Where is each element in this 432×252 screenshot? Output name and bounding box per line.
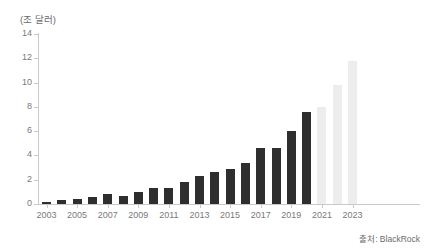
x-axis-tick-label: 2013 <box>189 210 209 220</box>
bar <box>333 85 342 204</box>
y-axis-tick-label: 2 <box>27 174 32 184</box>
x-axis-tick-mark <box>77 204 78 208</box>
y-axis-tick-label: 10 <box>22 77 32 87</box>
x-axis-tick-label: 2017 <box>251 210 271 220</box>
x-axis-tick-mark <box>169 204 170 208</box>
x-axis-tick-label: 2005 <box>67 210 87 220</box>
bar <box>317 107 326 204</box>
x-axis-tick-mark <box>108 204 109 208</box>
bar <box>149 188 158 204</box>
x-axis-tick-mark <box>138 204 139 208</box>
bar <box>241 163 250 204</box>
y-axis-tick-label: 14 <box>22 28 32 38</box>
x-axis-tick-mark <box>322 204 323 208</box>
x-axis-tick-mark <box>353 204 354 208</box>
x-axis-tick-mark <box>47 204 48 208</box>
x-axis-tick-mark <box>230 204 231 208</box>
y-axis-tick-label: 4 <box>27 149 32 159</box>
bar <box>302 112 311 204</box>
x-axis-tick-mark <box>261 204 262 208</box>
y-axis-unit-label: (조 달러) <box>20 12 56 26</box>
bar <box>119 196 128 205</box>
x-axis-tick-label: 2023 <box>342 210 362 220</box>
x-axis-tick-mark <box>291 204 292 208</box>
x-axis-tick-label: 2019 <box>281 210 301 220</box>
bar <box>226 169 235 204</box>
x-axis-ticks: 2003200520072009201120132015201720192021… <box>38 204 420 222</box>
bar <box>210 172 219 204</box>
bar <box>103 194 112 204</box>
x-axis-tick-label: 2015 <box>220 210 240 220</box>
y-axis-tick-label: 8 <box>27 101 32 111</box>
x-axis-tick-label: 2021 <box>312 210 332 220</box>
bar <box>180 182 189 204</box>
bar <box>348 61 357 204</box>
bar <box>195 176 204 204</box>
y-axis-tick-label: 6 <box>27 125 32 135</box>
x-axis-tick-label: 2003 <box>36 210 56 220</box>
bar <box>272 148 281 204</box>
bar <box>134 192 143 204</box>
bar-chart: (조 달러) 02468101214 200320052007200920112… <box>0 0 432 252</box>
bar <box>287 131 296 204</box>
y-axis-tick-label: 0 <box>27 198 32 208</box>
x-axis-tick-mark <box>200 204 201 208</box>
bar <box>256 148 265 204</box>
source-attribution: 출처: BlackRock <box>359 232 420 244</box>
bar <box>164 188 173 204</box>
bar <box>88 197 97 204</box>
x-axis-tick-label: 2009 <box>128 210 148 220</box>
y-axis-tick-label: 12 <box>22 52 32 62</box>
x-axis-tick-label: 2011 <box>159 210 178 220</box>
bars-group <box>38 34 420 204</box>
x-axis-tick-label: 2007 <box>98 210 118 220</box>
